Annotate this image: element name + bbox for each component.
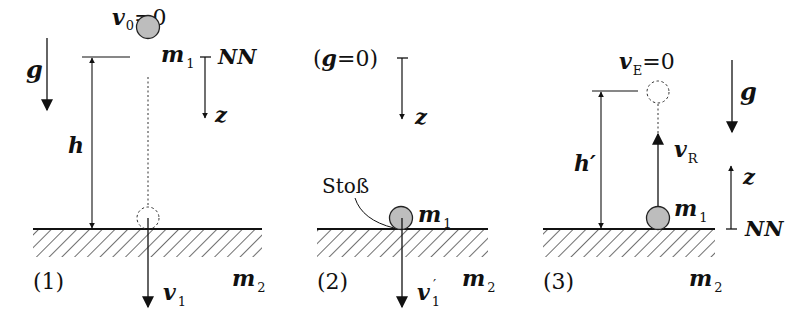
height-label-3: h′ [574,150,596,176]
panel-1: g h v0=0 m1 v1 NN z (1) m2 [26,4,266,309]
velocity-label-3: vR [674,136,699,166]
impact-leader-line [355,198,394,228]
vE-label: vE=0 [619,48,675,78]
mass1-label-2: m1 [418,201,452,231]
ball-m1-rebound [647,207,670,230]
gravity-label-3: g [740,77,757,106]
mass1-label-3: m1 [674,195,708,225]
gravity-label-1: g [26,55,43,84]
mass2-label-2: m2 [462,265,496,295]
mass1-label-1: m1 [161,41,195,71]
panel-number-1: (1) [33,269,64,294]
gravity-zero-label: (g=0) [313,45,378,71]
bouncing-ball-diagram: g h v0=0 m1 v1 NN z (1) m2 [0,0,806,321]
velocity-label-2: v1′ [417,277,440,309]
height-label-1: h [68,132,84,158]
reference-label-1: NN [217,44,257,69]
panel-number-2: (2) [317,269,348,294]
velocity-label-1: v1 [163,279,186,309]
ball-m1-impact [390,207,413,230]
panel-2: (g=0) (g=0) z Stoß m1 v1′ (2) m2 [313,45,496,309]
impact-label: Stoß [322,174,369,198]
z-axis-label-1: z [214,102,228,127]
mass2-label-3: m2 [689,265,723,295]
z-axis-label-3: z [742,164,756,189]
ground-3 [543,229,715,257]
ball-m1-apex-ghost [647,81,669,103]
z-axis-label-2: z [414,104,428,129]
mass2-label-1: m2 [232,265,266,295]
panel-number-3: (3) [543,269,574,294]
ball-m1-start [137,16,160,39]
reference-label-3: NN [744,216,784,241]
panel-3: vE=0 h′ vR m1 g z NN (3) m2 [543,48,784,295]
